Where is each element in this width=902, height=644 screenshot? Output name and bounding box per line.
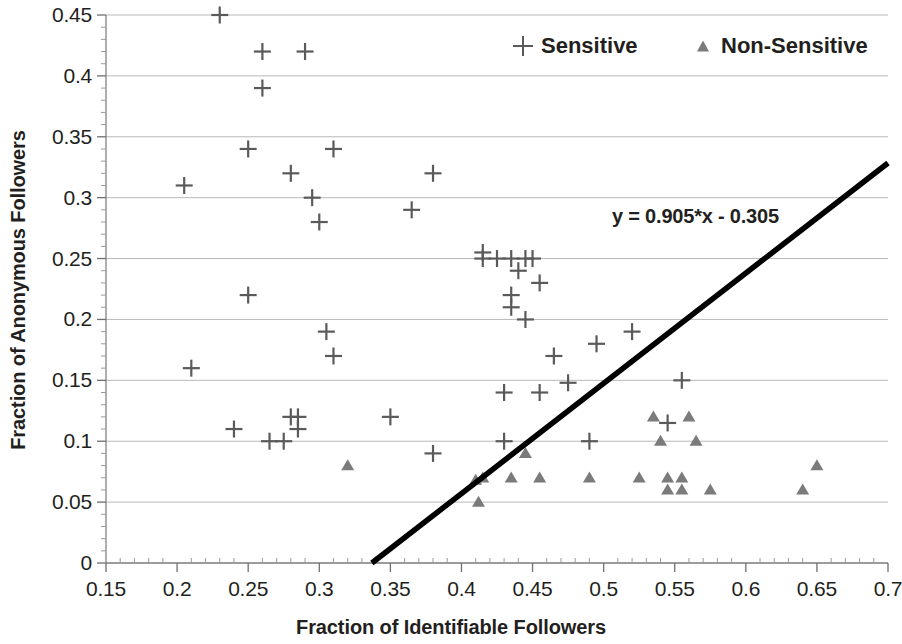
y-tick-label: 0.15 xyxy=(52,368,92,392)
x-tick-label: 0.2 xyxy=(163,577,192,601)
x-tick-label: 0.25 xyxy=(228,577,268,601)
series-sensitive-markers xyxy=(176,7,691,462)
gridlines xyxy=(106,15,888,563)
x-tick-label: 0.15 xyxy=(86,577,126,601)
legend-item-non-sensitive: Non-Sensitive xyxy=(692,33,868,59)
x-tick-label: 0.5 xyxy=(589,577,618,601)
x-tick-label: 0.3 xyxy=(305,577,334,601)
x-tick-label: 0.45 xyxy=(512,577,552,601)
series-non-sensitive-markers xyxy=(341,410,823,506)
y-tick-label: 0.05 xyxy=(52,490,92,514)
x-tick-label: 0.7 xyxy=(874,577,902,601)
plus-marker-icon xyxy=(512,35,534,57)
legend-label-non-sensitive: Non-Sensitive xyxy=(721,33,868,59)
y-axis-title-text: Fraction of Anonymous Followers xyxy=(7,130,30,450)
scatter-chart-figure: 00.050.10.150.20.250.30.350.40.45 0.150.… xyxy=(0,0,902,644)
y-tick-label: 0.2 xyxy=(63,307,92,331)
x-tick-label: 0.4 xyxy=(447,577,476,601)
x-axis-title: Fraction of Identifiable Followers xyxy=(0,616,902,639)
plot-area xyxy=(0,0,902,644)
trendline-equation-label: y = 0.905*x - 0.305 xyxy=(612,205,779,228)
y-tick-label: 0 xyxy=(81,551,92,575)
triangle-marker-icon xyxy=(692,35,714,57)
legend-item-sensitive: Sensitive xyxy=(512,33,638,59)
y-tick-label: 0.3 xyxy=(63,186,92,210)
x-tick-label: 0.65 xyxy=(797,577,837,601)
y-tick-label: 0.35 xyxy=(52,125,92,149)
y-tick-label: 0.25 xyxy=(52,247,92,271)
y-axis-title: Fraction of Anonymous Followers xyxy=(0,0,36,580)
y-tick-label: 0.1 xyxy=(63,429,92,453)
y-tick-label: 0.4 xyxy=(63,64,92,88)
x-tick-label: 0.6 xyxy=(732,577,761,601)
x-tick-label: 0.55 xyxy=(655,577,695,601)
x-tick-label: 0.35 xyxy=(370,577,410,601)
legend-label-sensitive: Sensitive xyxy=(541,33,638,59)
y-tick-label: 0.45 xyxy=(52,3,92,27)
x-axis-ticks xyxy=(106,558,888,572)
y-axis-ticks xyxy=(97,15,106,563)
